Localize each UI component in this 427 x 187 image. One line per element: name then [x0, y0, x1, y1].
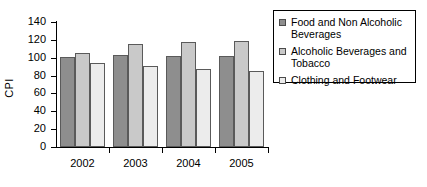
bar	[249, 71, 264, 147]
y-tick-label: 80	[12, 70, 46, 81]
y-tick-label: 140	[12, 16, 46, 27]
bar-group	[60, 22, 105, 147]
x-tick	[109, 148, 110, 153]
x-category-label: 2002	[53, 157, 113, 169]
bar-group	[166, 22, 211, 147]
x-tick	[162, 148, 163, 153]
bar	[181, 42, 196, 147]
y-tick-label: 40	[12, 105, 46, 116]
y-tick-label: 60	[12, 87, 46, 98]
legend-swatch-icon	[279, 19, 286, 26]
x-category-label: 2005	[212, 157, 272, 169]
x-category-label: 2004	[159, 157, 219, 169]
x-tick	[268, 148, 269, 153]
bar	[128, 44, 143, 147]
legend-item: Food and Non Alcoholic Beverages	[279, 16, 411, 40]
legend-label: Clothing and Footwear	[291, 74, 397, 86]
legend-item: Clothing and Footwear	[279, 74, 411, 86]
bar-group	[219, 22, 264, 147]
legend-label: Food and Non Alcoholic Beverages	[291, 16, 411, 40]
legend-label: Alcoholic Beverages and Tobacco	[291, 45, 411, 69]
y-tick-label: 100	[12, 52, 46, 63]
legend-swatch-icon	[279, 77, 286, 84]
y-tick	[51, 147, 56, 148]
bar	[234, 41, 249, 147]
bar	[219, 56, 234, 147]
plot-area	[56, 22, 268, 147]
x-tick	[215, 148, 216, 153]
y-tick-label: 0	[12, 141, 46, 152]
x-category-label: 2003	[106, 157, 166, 169]
bar	[75, 53, 90, 147]
bar-chart: CPI 020406080100120140 2002200320042005 …	[0, 0, 427, 187]
y-tick-label: 120	[12, 34, 46, 45]
bar	[113, 55, 128, 147]
bar	[196, 69, 211, 147]
bar	[166, 56, 181, 147]
legend-item: Alcoholic Beverages and Tobacco	[279, 45, 411, 69]
legend-swatch-icon	[279, 48, 286, 55]
chart-legend: Food and Non Alcoholic BeveragesAlcoholi…	[273, 10, 416, 83]
bar-group	[113, 22, 158, 147]
y-tick-label: 20	[12, 123, 46, 134]
bar	[60, 57, 75, 147]
bar	[143, 66, 158, 147]
bar	[90, 63, 105, 147]
